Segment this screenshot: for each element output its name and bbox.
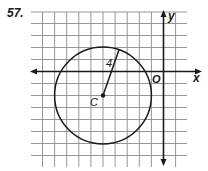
- x-axis-left-arrow-icon: [30, 69, 37, 75]
- origin-label: O: [152, 73, 161, 85]
- x-axis-label: x: [192, 71, 201, 85]
- x-axis: [30, 69, 202, 75]
- y-axis-top-arrow-icon: [161, 10, 167, 17]
- graph: 4 C O x y: [0, 0, 208, 171]
- y-axis: [161, 10, 167, 166]
- y-axis-bottom-arrow-icon: [161, 159, 167, 166]
- radius-label: 4: [106, 57, 112, 69]
- problem-number: 57.: [7, 6, 24, 20]
- center-point: [101, 93, 105, 97]
- coordinate-plane-figure: 57.: [0, 0, 208, 171]
- center-label: C: [90, 96, 98, 108]
- y-axis-label: y: [167, 9, 176, 23]
